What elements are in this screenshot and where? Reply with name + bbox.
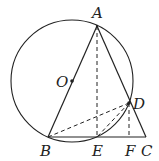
label-e: E	[91, 142, 103, 160]
label-a: A	[90, 4, 103, 22]
label-d: D	[132, 95, 145, 113]
label-c: C	[141, 142, 153, 160]
segment-de	[97, 103, 129, 137]
geometry-diagram: A O B E F C D	[0, 0, 159, 161]
point-a	[96, 25, 98, 27]
label-o: O	[56, 73, 68, 91]
segment-ac	[97, 26, 146, 137]
label-f: F	[124, 142, 136, 160]
label-b: B	[39, 142, 51, 160]
point-d	[127, 101, 131, 105]
point-o	[70, 79, 74, 83]
